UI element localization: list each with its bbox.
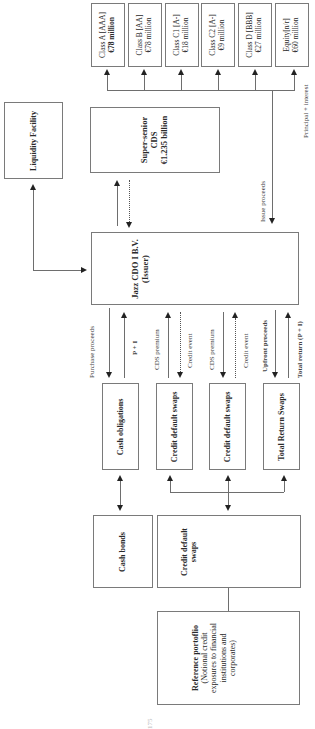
cds-box-2: Credit default swaps: [209, 383, 246, 470]
arrow-up-icon: [167, 475, 173, 481]
trs-box: Total Return Swaps: [263, 383, 300, 470]
tranche-connector: [107, 74, 108, 90]
arrow-up-icon: [225, 475, 231, 481]
tranche-class-b: Class B [AA]€78 million: [128, 3, 162, 67]
liquidity-connector-h: [33, 270, 81, 271]
arrow-up-icon: [215, 69, 221, 75]
cds-1-label: Credit default swaps: [170, 391, 179, 462]
super-senior-credit-event-line: [129, 180, 130, 222]
arrow-down-icon: [269, 218, 275, 224]
arrow-down-icon: [272, 372, 278, 378]
reference-portfolio-line2: exposures to financial: [210, 623, 219, 693]
swap-connector-1: [170, 481, 171, 492]
tranche-distribution-bar: [107, 90, 295, 91]
cds-premium-1-line: [168, 318, 169, 378]
arrow-down-icon: [126, 222, 132, 228]
cds-box-1: Credit default swaps: [156, 383, 193, 470]
reference-portfolio-line1: (Notional credit: [201, 623, 210, 693]
purchase-proceeds-line: [109, 308, 110, 376]
tranche-connector: [144, 74, 145, 90]
arrow-up-icon: [291, 69, 297, 75]
cds-premium-2-label: CDS premium: [208, 329, 216, 370]
arrow-up-icon: [121, 312, 127, 318]
arrow-up-icon: [104, 69, 110, 75]
liquidity-connector-v: [33, 190, 34, 270]
arrow-up-icon: [232, 312, 238, 318]
cash-bonds-label: Cash bonds: [118, 532, 127, 572]
tranche-class-a: Class A [AAA]€78 million: [91, 3, 125, 67]
tranche-amount: €78 million: [145, 15, 154, 56]
super-senior-amount: €1.235 billion: [160, 116, 170, 165]
swap-connector-3: [284, 481, 285, 492]
tranche-class-d: Class D [BBB]€27 million: [238, 3, 272, 67]
super-senior-premium-line: [117, 186, 118, 226]
tranche-connector: [255, 74, 256, 90]
cds-2-label: Credit default swaps: [223, 391, 232, 462]
cash-connector: [120, 481, 121, 505]
arrow-up-icon: [281, 475, 287, 481]
credit-event-1-line: [180, 312, 181, 372]
cash-obligations-label: Cash obligations: [116, 398, 125, 455]
issuer-box: Jazz CDO I B.V. (Issuer): [91, 232, 299, 305]
upfront-proceeds-line: [275, 310, 276, 372]
arrow-down-icon: [106, 372, 112, 378]
credit-event-2-line: [235, 318, 236, 378]
arrow-down-icon: [117, 505, 123, 511]
arrow-up-icon: [252, 69, 258, 75]
cash-bonds-box: Cash bonds: [93, 515, 153, 588]
credit-default-swaps-box: Credit default swaps: [157, 515, 301, 588]
liquidity-facility-label: Liquidity Facility: [29, 111, 38, 171]
total-return-label: Total return (P + I): [296, 321, 304, 378]
tranche-amount: €27 million: [255, 12, 264, 57]
arrow-right-icon: [81, 267, 87, 273]
tranche-amount: €9 million: [218, 14, 227, 56]
purchase-proceeds-label: Purchase proceeds: [88, 326, 96, 378]
arrow-up-icon: [165, 312, 171, 318]
arrow-up-icon: [30, 184, 36, 190]
cds-underlying-line2: swaps: [189, 527, 198, 575]
liquidity-facility-box: Liquidity Facility: [4, 102, 63, 179]
reference-connector: [228, 588, 229, 611]
page-number: 175: [146, 719, 154, 729]
tranche-amount: €60 million: [292, 18, 301, 53]
arrow-up-icon: [114, 180, 120, 186]
p-plus-i-line: [124, 318, 125, 378]
issue-proceeds-label: Issue proceeds: [259, 181, 267, 222]
tranche-amount: €18 million: [182, 14, 191, 56]
swap-connector-2: [228, 481, 229, 505]
credit-event-1-label: Credit event: [186, 334, 194, 368]
arrow-down-icon: [225, 505, 231, 511]
credit-event-2-label: Credit event: [242, 334, 250, 368]
tranche-connector: [181, 74, 182, 90]
principal-interest-label: Principal + interest: [302, 85, 310, 138]
cds-premium-2-line: [223, 312, 224, 372]
reference-portfolio-line3: institutions and: [219, 623, 228, 693]
cds-premium-1-label: CDS premium: [153, 329, 161, 370]
tranche-connector: [218, 74, 219, 90]
p-plus-i-label: P + I: [131, 341, 139, 355]
issue-proceeds-line: [272, 90, 273, 218]
cash-obligations-box: Cash obligations: [102, 383, 139, 470]
arrow-up-icon: [141, 69, 147, 75]
upfront-proceeds-label: Upfront proceeds: [261, 320, 269, 372]
total-return-line: [288, 318, 289, 378]
reference-portfolio-box: Reference portoflio (Notional credit exp…: [157, 611, 300, 705]
arrow-down-icon: [220, 372, 226, 378]
reference-portfolio-line4: corporates): [228, 623, 237, 693]
tranche-connector: [294, 74, 295, 90]
tranche-amount: €78 million: [108, 12, 117, 58]
arrow-up-icon: [285, 312, 291, 318]
tranche-equity: Equity[n/r]€60 million: [275, 3, 309, 67]
arrow-up-icon: [117, 475, 123, 481]
reference-portfolio-title: Reference portoflio: [191, 623, 200, 693]
trs-label: Total Return Swaps: [277, 393, 286, 461]
tranche-class-c2: Class C2 [A-]€9 million: [201, 3, 235, 67]
swap-bar: [170, 492, 284, 493]
cds-underlying-line1: Credit default: [180, 527, 189, 575]
super-senior-cds-box: Super-senior CDS €1.235 billion: [90, 107, 220, 173]
tranche-class-c1: Class C1 [A-]€18 million: [165, 3, 199, 67]
issuer-role: (Issuer): [141, 239, 151, 299]
arrow-up-icon: [178, 69, 184, 75]
arrow-down-icon: [177, 372, 183, 378]
